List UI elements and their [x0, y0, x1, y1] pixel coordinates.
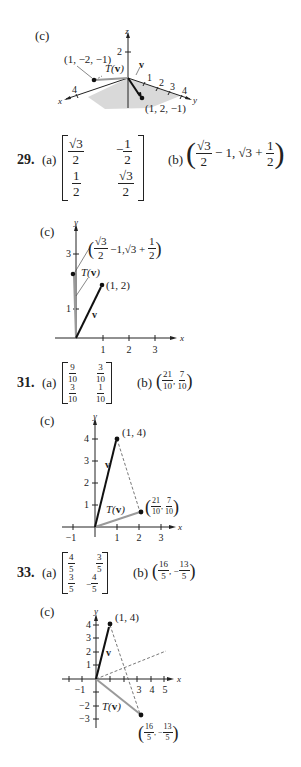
svg-text:−3: −3	[79, 713, 90, 724]
svg-text:2: 2	[117, 46, 122, 57]
part-b-label: (b)	[133, 565, 148, 581]
svg-text:1: 1	[86, 659, 91, 670]
part-c-label: (c)	[40, 413, 54, 429]
svg-text:3: 3	[84, 455, 89, 466]
svg-text:−1: −1	[66, 532, 77, 543]
svg-text:(1, 2): (1, 2)	[106, 279, 130, 292]
svg-text:y: y	[93, 606, 98, 616]
svg-text:v: v	[105, 459, 110, 470]
svg-text:4: 4	[150, 684, 155, 695]
svg-text:T(v): T(v)	[102, 700, 121, 713]
svg-text:y: y	[92, 411, 97, 421]
svg-text:T(v): T(v)	[81, 266, 100, 279]
svg-text:−2: −2	[79, 700, 90, 711]
matrix-33: 45 35 35 −45	[62, 552, 108, 594]
svg-text:(1, 2, −1): (1, 2, −1)	[145, 102, 186, 115]
svg-text:3: 3	[159, 532, 164, 543]
x-axis-label: x	[57, 96, 62, 106]
part-a-label: (a)	[42, 565, 56, 581]
svg-text:v: v	[92, 309, 97, 320]
svg-text:4: 4	[86, 619, 91, 630]
matrix-31: 910 310 310 110	[62, 362, 112, 404]
svg-text:T(v): T(v)	[106, 503, 125, 516]
part-c-label: (c)	[40, 224, 54, 240]
part-c-label: (c)	[40, 604, 54, 620]
part-b-answer: (2110, 710)	[156, 370, 193, 391]
problem-number-31: 31.	[17, 375, 35, 391]
svg-text:x: x	[177, 522, 182, 532]
svg-text:(1, −2, −1): (1, −2, −1)	[64, 53, 112, 66]
svg-text:−1: −1	[75, 684, 86, 695]
svg-text:x: x	[176, 674, 181, 684]
svg-text:3: 3	[170, 81, 175, 92]
svg-text:1: 1	[84, 499, 89, 510]
z-axis-label: z	[124, 26, 129, 36]
point-T-label: (2110, 710)	[145, 497, 179, 516]
svg-text:1: 1	[66, 303, 71, 314]
point-T-label: (165, −135)	[138, 723, 179, 742]
part-b-answer: (165, −135)	[152, 560, 196, 581]
svg-text:2: 2	[86, 646, 91, 657]
part-a-label: (a)	[42, 375, 56, 391]
part-c-label: (c)	[35, 28, 49, 44]
svg-text:4: 4	[72, 84, 77, 95]
svg-text:v: v	[106, 647, 111, 658]
problem-number-33: 33.	[17, 565, 35, 581]
svg-text:2: 2	[159, 77, 164, 88]
svg-text:2: 2	[137, 532, 142, 543]
svg-text:y: y	[73, 217, 78, 227]
svg-text:4: 4	[84, 433, 89, 444]
svg-text:v: v	[139, 59, 144, 70]
point-T-label: (√32 −1,√3 + 12)	[88, 236, 162, 261]
part-b-label: (b)	[168, 152, 183, 168]
svg-text:4: 4	[182, 85, 187, 96]
svg-text:(1, 4): (1, 4)	[122, 426, 146, 439]
svg-text:1: 1	[115, 532, 120, 543]
svg-text:T(v): T(v)	[105, 62, 124, 75]
svg-text:3: 3	[137, 684, 142, 695]
matrix-29: √32 −12 12 √32	[62, 135, 144, 201]
svg-text:x: x	[179, 333, 184, 343]
svg-text:3: 3	[153, 344, 158, 355]
svg-text:2: 2	[84, 477, 89, 488]
svg-text:1: 1	[101, 344, 106, 355]
svg-text:1: 1	[147, 72, 152, 83]
part-a-label: (a)	[42, 152, 56, 168]
svg-text:2: 2	[127, 344, 132, 355]
y-axis-label: y	[192, 95, 197, 105]
part-b-answer: (√32 − 1, √3 + 12)	[186, 138, 284, 168]
svg-text:3: 3	[86, 632, 91, 643]
problem-number-29: 29.	[17, 152, 35, 168]
part-b-label: (b)	[137, 375, 152, 391]
svg-text:3: 3	[66, 248, 71, 259]
svg-text:5: 5	[163, 684, 168, 695]
svg-text:(1, 4): (1, 4)	[115, 611, 139, 624]
